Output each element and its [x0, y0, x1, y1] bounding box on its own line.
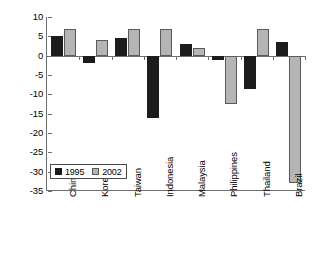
bar-philippines-2002: [225, 56, 237, 104]
y-axis-tick-label: 10: [33, 11, 43, 22]
bar-malaysia-1995: [180, 44, 192, 56]
x-axis-tick-mark: [208, 56, 209, 60]
legend-label-1995: 1995: [65, 167, 84, 177]
x-axis-tick-mark: [305, 56, 306, 60]
bar-chart: 1050-5-10-15-20-25-30-35 ChinaKoreaTaiwa…: [0, 0, 320, 275]
bar-korea-1995: [83, 56, 95, 64]
x-axis-label-thailand: Thailand: [262, 161, 272, 197]
bar-taiwan-1995: [115, 38, 127, 55]
x-axis-tick-mark: [176, 56, 177, 60]
bar-malaysia-2002: [193, 48, 205, 56]
bar-indonesia-2002: [160, 29, 172, 56]
bar-indonesia-1995: [147, 56, 159, 118]
bar-thailand-1995: [244, 56, 256, 89]
chart-legend: 1995 2002: [50, 164, 127, 179]
x-axis-label-brazil: Brazil: [294, 174, 304, 197]
legend-label-2002: 2002: [102, 167, 121, 177]
legend-swatch-1995-icon: [55, 168, 62, 175]
x-axis-tick-mark: [79, 56, 80, 60]
bar-korea-2002: [96, 40, 108, 55]
y-axis-tick-label: -15: [30, 108, 43, 119]
y-axis-tick-label: -35: [30, 185, 43, 196]
bar-thailand-2002: [257, 29, 269, 56]
x-axis-label-taiwan: Taiwan: [133, 168, 143, 197]
legend-swatch-2002-icon: [92, 168, 99, 175]
y-axis-tick-label: -30: [30, 166, 43, 177]
x-axis-label-malaysia: Malaysia: [197, 160, 207, 197]
x-axis-tick-mark: [112, 56, 113, 60]
y-axis-tick-label: -10: [30, 88, 43, 99]
y-axis-tick-mark: [48, 191, 52, 192]
y-axis-tick-label: 5: [38, 30, 43, 41]
y-axis-tick-label: 0: [38, 50, 43, 61]
y-axis-tick-label: -25: [30, 146, 43, 157]
bar-brazil-2002: [289, 56, 301, 184]
bar-brazil-1995: [276, 42, 288, 56]
x-axis-label-philippines: Philippines: [229, 152, 239, 197]
legend-item-1995: 1995: [55, 167, 84, 177]
bar-philippines-1995: [212, 56, 224, 60]
y-axis-tick-label: -20: [30, 127, 43, 138]
x-axis-tick-mark: [273, 56, 274, 60]
x-axis-label-indonesia: Indonesia: [165, 157, 175, 197]
bar-china-1995: [51, 36, 63, 55]
x-axis-tick-mark: [144, 56, 145, 60]
y-axis-tick-label: -5: [35, 69, 43, 80]
x-axis-tick-mark: [241, 56, 242, 60]
bar-taiwan-2002: [128, 29, 140, 56]
legend-item-2002: 2002: [92, 167, 121, 177]
bar-china-2002: [64, 29, 76, 56]
